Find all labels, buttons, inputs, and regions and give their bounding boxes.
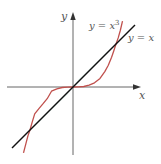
x-axis-label: x (139, 89, 146, 102)
label-cubic-exponent: 3 (115, 19, 119, 27)
label-line-rhs: x (148, 32, 154, 43)
label-line-eq: = (134, 32, 149, 43)
label-y-equals-x: y = x (127, 32, 154, 43)
y-axis-arrow-icon (70, 12, 75, 20)
area-between-curves-diagram: y x y = x3 y = x (0, 0, 161, 164)
line-y-equals-x (12, 25, 135, 148)
label-y-equals-x-cubed: y = x3 (88, 19, 120, 31)
y-axis-label: y (60, 10, 68, 23)
label-cubic-eq: = (95, 20, 110, 31)
